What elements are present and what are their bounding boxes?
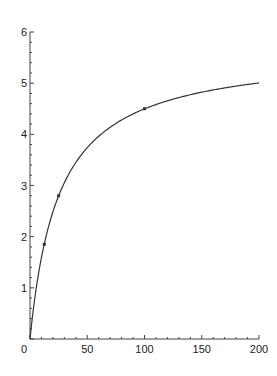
y-tick-label: 5 [21,77,27,89]
x-tick-label: 150 [193,343,211,355]
x-tick-label: 50 [81,343,93,355]
curve-line [30,83,259,339]
x-tick-label: 200 [250,343,268,355]
ticks [30,32,259,339]
chart: 050100150200123456 [0,0,277,376]
y-tick-label: 6 [21,26,27,38]
tick-labels: 050100150200123456 [21,26,268,355]
data-point [57,194,60,197]
origin-label: 0 [21,343,27,355]
y-tick-label: 2 [21,231,27,243]
data-point [143,107,146,110]
data-point [43,243,46,246]
x-tick-label: 100 [135,343,153,355]
data-points [43,107,146,246]
y-tick-label: 4 [21,128,27,140]
axes [30,32,259,339]
y-tick-label: 3 [21,180,27,192]
y-tick-label: 1 [21,282,27,294]
